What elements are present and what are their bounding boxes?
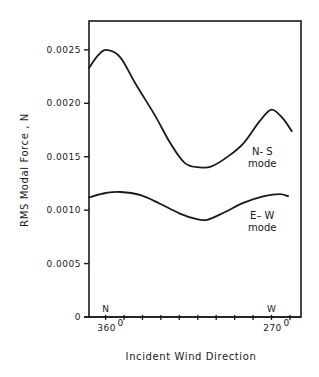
x-axis-title: Incident Wind Direction (126, 351, 257, 362)
x-axis: 3600N2700W (84, 304, 301, 333)
y-tick-label: 0 (75, 312, 81, 322)
x-tick-label: 270 (263, 323, 282, 333)
plot-frame (89, 21, 301, 317)
chart: 00.00050.00100.00150.00200.0025 3600N270… (0, 0, 319, 377)
degree-superscript: 0 (118, 318, 124, 328)
degree-superscript: 0 (284, 318, 290, 328)
y-tick-label: 0.0025 (47, 45, 82, 55)
compass-direction-label: W (267, 304, 276, 314)
x-tick-label: 360 (97, 323, 116, 333)
y-axis: 00.00050.00100.00150.00200.0025 (47, 45, 90, 322)
annotations: N- SmodeE– Wmode (248, 146, 276, 233)
series-label-mode-n-s-mode: mode (248, 158, 276, 169)
y-tick-label: 0.0005 (47, 259, 82, 269)
series-label-e-w-mode: E– W (250, 210, 274, 221)
y-tick-label: 0.0020 (47, 98, 82, 108)
series-group (89, 50, 292, 220)
compass-direction-label: N (102, 304, 109, 314)
y-tick-label: 0.0010 (47, 205, 82, 215)
series-label-n-s-mode: N- S (252, 146, 273, 157)
series-label-mode-e-w-mode: mode (248, 222, 276, 233)
y-axis-title: RMS Modal Force , N (19, 113, 30, 227)
y-tick-label: 0.0015 (47, 152, 82, 162)
